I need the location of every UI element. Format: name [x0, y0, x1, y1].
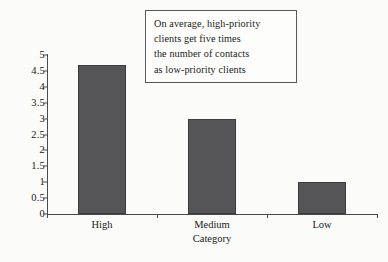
y-axis-tick-mark: [43, 182, 47, 183]
y-axis-tick-mark: [43, 198, 47, 199]
y-axis-tick-mark: [43, 102, 47, 103]
annotation-callout-box: On average, high-priority clients get fi…: [145, 10, 297, 83]
x-axis-tick-mark: [157, 214, 158, 218]
annotation-line: as low-priority clients: [154, 62, 289, 77]
annotation-line: the number of contacts: [154, 46, 289, 61]
bar-low: [298, 182, 346, 214]
y-axis-tick-mark: [43, 70, 47, 71]
annotation-line: On average, high-priority: [154, 16, 289, 31]
y-axis-tick-mark: [43, 150, 47, 151]
annotation-line: clients get five times: [154, 31, 289, 46]
y-axis-line: [47, 54, 48, 215]
bar-medium: [188, 119, 236, 214]
bar-high: [78, 65, 126, 214]
x-axis-tick-mark: [267, 214, 268, 218]
x-axis-tick-mark: [377, 214, 378, 218]
bar-chart-figure: 00.511.522.533.544.55 HighMediumLow Cate…: [0, 0, 388, 262]
y-axis-tick-mark: [43, 118, 47, 119]
x-axis-title: Category: [157, 233, 267, 245]
category-label-low: Low: [267, 219, 377, 231]
category-label-medium: Medium: [157, 219, 267, 231]
x-axis-tick-mark: [47, 214, 48, 218]
x-axis-line: [47, 214, 377, 215]
y-axis-tick-mark: [43, 55, 47, 56]
category-label-high: High: [47, 219, 157, 231]
y-axis-tick-mark: [43, 134, 47, 135]
y-axis-tick-mark: [43, 166, 47, 167]
y-axis-tick-mark: [43, 86, 47, 87]
